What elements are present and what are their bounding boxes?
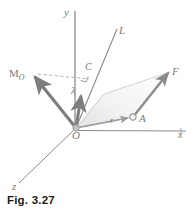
figure-caption: Fig. 3.27 xyxy=(7,194,55,206)
lambda-label: λ xyxy=(71,86,76,97)
point-C-label: C xyxy=(85,62,92,73)
moment-label-main: M xyxy=(9,67,19,79)
moment-vector-label: MO xyxy=(9,68,25,82)
z-axis-label: z xyxy=(12,182,16,193)
origin-label: O xyxy=(72,130,80,141)
moment-about-axis-diagram xyxy=(0,0,193,210)
z-axis-line xyxy=(19,128,76,183)
line-L-label: L xyxy=(119,25,125,36)
y-axis-label: y xyxy=(64,7,69,18)
moment-label-subscript: O xyxy=(19,73,25,82)
x-axis-label: x xyxy=(178,130,183,141)
dashed-construction-line xyxy=(38,74,89,79)
x-axis-line xyxy=(76,131,186,132)
right-angle-mark xyxy=(81,76,89,82)
point-A-marker xyxy=(130,114,136,120)
figure-container: y L C MO λ F A r O x z Fig. 3.27 xyxy=(0,0,193,210)
vector-r-label: r xyxy=(110,116,114,125)
force-F-label: F xyxy=(172,66,179,77)
point-A-label: A xyxy=(139,113,146,124)
moment-vector-MO xyxy=(35,77,76,128)
